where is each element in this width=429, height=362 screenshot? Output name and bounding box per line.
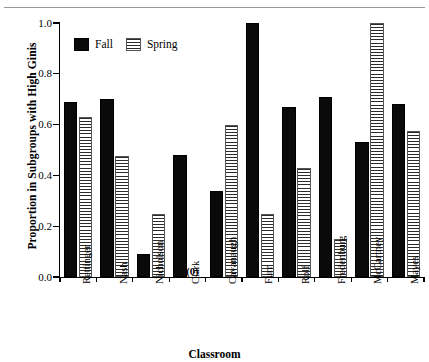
y-tick-label: 0.0 — [22, 272, 52, 283]
y-tick-mark — [53, 175, 60, 176]
legend-label-fall: Fall — [95, 39, 113, 51]
y-tick-mark — [53, 124, 60, 125]
y-tick-label: 1.0 — [22, 18, 52, 29]
bar-furr-fall — [246, 23, 260, 277]
bar-nicholson-fall — [137, 254, 151, 277]
bar-nash-fall — [100, 99, 114, 277]
x-axis-title: Classroom — [0, 348, 429, 360]
x-tick-label-clark: Clark — [191, 261, 202, 284]
legend-label-spring: Spring — [147, 39, 178, 51]
x-tick-label-mccartney: McCartney — [373, 237, 384, 284]
x-tick-mark — [387, 277, 388, 282]
bar-clark-fall — [173, 155, 187, 277]
chart-legend: FallSpring — [74, 38, 178, 51]
y-tick-mark — [53, 73, 60, 74]
y-tick-label: 0.8 — [22, 68, 52, 79]
x-tick-label-rettinger: Rettinger — [82, 245, 93, 284]
y-tick-label: 0.4 — [22, 170, 52, 181]
bar-chart-figure: Proportion in Subgroups with High Ginis … — [0, 0, 429, 362]
x-tick-label-nash: Nash — [119, 262, 130, 284]
legend-item-spring: Spring — [126, 38, 178, 51]
legend-swatch-fall — [74, 38, 89, 51]
plot-area: (0) — [60, 23, 424, 277]
x-tick-mark — [241, 277, 242, 282]
bar-nash-spring — [115, 156, 129, 277]
y-tick-label: 0.6 — [22, 119, 52, 130]
x-tick-label-furr: Furr — [264, 266, 275, 284]
x-tick-mark — [59, 277, 60, 282]
x-tick-label-fredenburg: Fredenburg — [337, 236, 348, 284]
bar-rolf-spring — [297, 168, 311, 277]
x-tick-mark — [169, 277, 170, 282]
legend-item-fall: Fall — [74, 38, 113, 51]
y-axis-title: Proportion in Subgroups with High Ginis — [26, 16, 38, 276]
bar-mccartney-fall — [355, 142, 369, 277]
y-tick-mark — [53, 226, 60, 227]
bar-rolf-fall — [282, 107, 296, 277]
x-tick-mark — [314, 277, 315, 282]
x-tick-mark — [205, 277, 206, 282]
x-tick-label-nicholson: Nicholson — [155, 241, 166, 284]
bar-mayes-fall — [392, 104, 406, 277]
x-tick-label-mayes: Mayes — [410, 256, 421, 284]
bar-fredenburg-fall — [319, 97, 333, 277]
y-tick-mark — [53, 22, 60, 23]
x-tick-mark — [423, 277, 424, 282]
x-tick-label-rolf: Rolf — [301, 265, 312, 284]
legend-swatch-spring — [126, 38, 141, 51]
x-tick-mark — [351, 277, 352, 282]
y-tick-label: 0.2 — [22, 221, 52, 232]
x-tick-label-cavanaugh: Cavanaugh — [228, 237, 239, 284]
x-tick-mark — [96, 277, 97, 282]
x-tick-mark — [132, 277, 133, 282]
header-divider — [4, 7, 425, 8]
bar-rettinger-fall — [64, 102, 78, 277]
bar-cavanaugh-fall — [210, 191, 224, 277]
x-tick-mark — [278, 277, 279, 282]
